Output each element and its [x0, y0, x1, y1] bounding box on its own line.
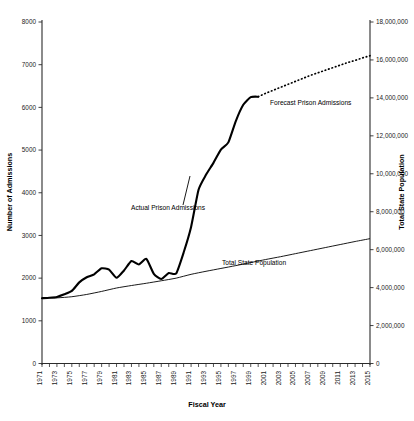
annotation-total-state-population: Total State Population [222, 259, 286, 267]
x-tick-label: 1987 [155, 371, 162, 386]
x-axis-ticks: 1971197319751977197919811983198519871989… [36, 364, 371, 386]
right-axis-title: Total State Population [397, 154, 406, 229]
right-tick-label: 6,000,000 [376, 246, 405, 253]
left-tick-label: 5000 [22, 146, 37, 153]
annotation-actual-prison-admissions: Actual Prison Admissions [131, 204, 206, 211]
annotation-forecast-prison-admissions: Forecast Prison Admissions [270, 99, 352, 106]
series-forecast-prison-admissions [258, 56, 370, 97]
x-tick-label: 2003 [275, 371, 282, 386]
x-tick-label: 2015 [364, 371, 371, 386]
x-tick-label: 1989 [170, 371, 177, 386]
x-tick-label: 2011 [334, 371, 341, 385]
left-tick-label: 2000 [22, 274, 37, 281]
left-tick-label: 4000 [22, 189, 37, 196]
x-tick-label: 1997 [230, 371, 237, 386]
x-tick-label: 1993 [200, 371, 207, 386]
prison-admissions-chart: 010002000300040005000600070008000 02,000… [0, 0, 414, 421]
x-tick-label: 1991 [185, 371, 192, 386]
left-axis-title: Number of Admissions [5, 153, 14, 231]
x-tick-label: 1975 [66, 371, 73, 386]
x-tick-label: 1985 [140, 371, 147, 386]
x-tick-label: 1995 [215, 371, 222, 386]
x-tick-label: 2009 [319, 371, 326, 386]
x-axis-title: Fiscal Year [188, 400, 226, 409]
x-tick-label: 2013 [349, 371, 356, 386]
x-tick-label: 1981 [111, 371, 118, 386]
left-tick-label: 0 [32, 360, 36, 367]
left-axis-ticks: 010002000300040005000600070008000 [22, 18, 42, 367]
right-tick-label: 14,000,000 [376, 94, 408, 101]
right-tick-label: 0 [376, 360, 380, 367]
left-tick-label: 3000 [22, 232, 37, 239]
x-tick-label: 1977 [81, 371, 88, 386]
chart-canvas: 010002000300040005000600070008000 02,000… [0, 0, 414, 421]
left-tick-label: 6000 [22, 104, 37, 111]
right-tick-label: 18,000,000 [376, 18, 408, 25]
x-tick-label: 2001 [260, 371, 267, 386]
x-tick-label: 1971 [36, 371, 43, 386]
x-tick-label: 2005 [289, 371, 296, 386]
right-tick-label: 16,000,000 [376, 56, 408, 63]
x-tick-label: 1999 [245, 371, 252, 386]
right-tick-label: 12,000,000 [376, 132, 408, 139]
series-total-state-population [42, 239, 370, 298]
x-tick-label: 1973 [51, 371, 58, 386]
left-tick-label: 8000 [22, 18, 37, 25]
x-tick-label: 1983 [125, 371, 132, 386]
right-tick-label: 4,000,000 [376, 284, 405, 291]
left-tick-label: 1000 [22, 317, 37, 324]
right-tick-label: 2,000,000 [376, 322, 405, 329]
left-tick-label: 7000 [22, 61, 37, 68]
actual-annotation-leader [183, 176, 190, 205]
x-tick-label: 1979 [96, 371, 103, 386]
x-tick-label: 2007 [304, 371, 311, 386]
